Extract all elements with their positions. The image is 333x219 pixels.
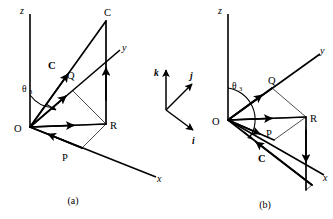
panel-a-label-C-point: C: [104, 7, 111, 18]
panel-b-proj-QR: [272, 88, 306, 117]
panel-a-arrow-OP: [48, 134, 82, 148]
panel-b-x-axis: [228, 120, 324, 175]
panel-b-theta-subscript: 3: [239, 85, 242, 92]
panel-a-label-z: z: [19, 5, 24, 16]
basis-label-j: j: [188, 71, 193, 81]
panel-a-label-Q: Q: [67, 70, 75, 81]
panel-b-label-Q: Q: [268, 75, 276, 86]
panel-a-proj-QR: [30, 124, 106, 127]
panel-b-proj-bottom: [306, 185, 312, 190]
panel-b: z y x O Q R P C θ 3 (b): [212, 5, 328, 211]
panel-a-theta-subscript: 3: [29, 88, 32, 95]
panel-a-label-P: P: [62, 152, 68, 163]
panel-b-theta-symbol: θ: [232, 81, 237, 91]
panel-b-label-R: R: [310, 113, 317, 124]
panel-a: z y x O C Q R P C θ 3 (a): [14, 5, 162, 207]
panel-b-label-z: z: [217, 5, 222, 16]
panel-b-proj-OR2: [228, 117, 306, 120]
basis-label-k: k: [154, 68, 159, 78]
panel-b-label-P: P: [266, 128, 272, 139]
panel-a-proj-PR: [82, 124, 106, 148]
panel-b-arrow-OQ: [228, 95, 262, 120]
panel-a-label-R: R: [110, 120, 117, 131]
figure-container: z y x O C Q R P C θ 3 (a) k j i: [0, 0, 333, 219]
panel-b-label-x: x: [322, 172, 328, 183]
basis-triad: k j i: [154, 68, 195, 146]
panel-b-label-O: O: [212, 116, 220, 127]
panel-b-proj-PR: [274, 117, 306, 140]
panel-a-theta-symbol: θ: [22, 84, 27, 94]
basis-vector-i: [166, 110, 193, 130]
panel-a-label-vector-C: C: [48, 60, 56, 71]
panel-b-caption: (b): [259, 199, 271, 211]
basis-vector-j: [166, 84, 192, 110]
panel-a-label-O: O: [14, 123, 22, 134]
panel-b-label-vector-C: C: [258, 153, 266, 164]
panel-a-caption: (a): [67, 195, 78, 207]
panel-a-label-x: x: [156, 173, 162, 184]
panel-b-label-y: y: [319, 45, 325, 56]
basis-label-i: i: [192, 136, 195, 146]
panel-a-label-y: y: [121, 42, 127, 53]
panel-a-proj-Q-to-R: [72, 90, 106, 124]
